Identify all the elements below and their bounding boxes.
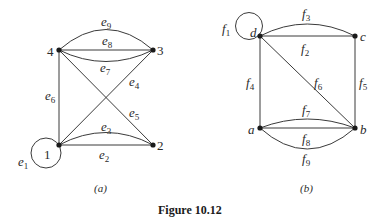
edge-f7	[260, 119, 355, 128]
caption-b: (b)	[300, 182, 313, 195]
vertex-label-2: 2	[157, 138, 164, 153]
edge-label-e1: e1	[18, 154, 28, 171]
edge-label-f4: f4	[246, 75, 255, 92]
graph-a: 1 2 3 4 e1 e2 e3 e4 e5 e6 e7 e8 e9 (a)	[18, 14, 164, 195]
edge-label-f8: f8	[302, 131, 311, 148]
graph-b: a b c d f1 f2 f3 f4 f5 f6 f7 f8 f9 (b)	[222, 6, 368, 195]
vertex-c	[352, 33, 357, 38]
edge-label-e5: e5	[129, 105, 140, 122]
edge-f3	[260, 24, 355, 36]
vertex-1	[56, 142, 61, 147]
edge-label-f1: f1	[222, 21, 230, 38]
vertex-2	[150, 142, 155, 147]
vertex-a	[257, 125, 262, 130]
edge-label-e8: e8	[102, 33, 113, 50]
figure-canvas: 1 2 3 4 e1 e2 e3 e4 e5 e6 e7 e8 e9 (a) a	[0, 0, 387, 221]
edge-label-f6: f6	[314, 75, 323, 92]
vertex-4	[56, 47, 61, 52]
figure-title: Figure 10.12	[158, 203, 222, 217]
vertex-label-a: a	[248, 122, 255, 137]
vertex-label-3: 3	[157, 43, 164, 58]
edge-label-e9: e9	[101, 14, 112, 31]
vertex-label-d: d	[250, 25, 257, 40]
vertex-label-1: 1	[44, 147, 51, 162]
vertex-label-b: b	[360, 122, 367, 137]
caption-a: (a)	[94, 182, 107, 195]
vertex-label-c: c	[360, 29, 366, 44]
edge-label-e2: e2	[99, 147, 109, 164]
edge-e7	[59, 50, 153, 62]
edge-label-f7: f7	[302, 102, 311, 119]
edge-label-f5: f5	[359, 75, 368, 92]
edge-label-e3: e3	[101, 119, 112, 136]
vertex-label-4: 4	[47, 44, 54, 59]
edge-label-f3: f3	[302, 6, 311, 23]
vertex-3	[150, 47, 155, 52]
edge-label-e7: e7	[100, 60, 111, 77]
vertex-d	[257, 33, 262, 38]
edge-label-e4: e4	[129, 74, 140, 91]
edge-label-f2: f2	[301, 41, 309, 58]
edge-label-e6: e6	[45, 88, 56, 105]
edge-label-f9: f9	[302, 151, 311, 168]
vertex-b	[352, 125, 357, 130]
